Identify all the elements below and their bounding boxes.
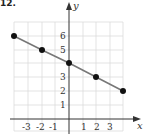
- data-point: [120, 88, 126, 94]
- y-tick-6: 6: [60, 31, 66, 41]
- data-point: [39, 47, 45, 53]
- x-tick-2: 2: [94, 122, 100, 132]
- problem-number: 12.: [0, 0, 16, 8]
- line-chart: y x 6 5 3 2 1 -3 -2 -1 1 2 3 12.: [0, 0, 146, 138]
- x-axis-label: x: [137, 120, 143, 131]
- y-tick-5: 5: [60, 45, 66, 55]
- data-point: [93, 74, 99, 80]
- y-tick-3: 3: [60, 72, 66, 82]
- x-tick-labels: -3 -2 -1 1 2 3: [22, 122, 113, 132]
- x-tick-neg3: -3: [22, 122, 31, 132]
- x-tick-3: 3: [107, 122, 113, 132]
- axes: [10, 8, 134, 134]
- y-tick-labels: 6 5 3 2 1: [60, 31, 66, 110]
- data-point: [11, 33, 17, 39]
- x-tick-neg1: -1: [49, 122, 58, 132]
- x-tick-neg2: -2: [36, 122, 45, 132]
- data-point: [66, 60, 72, 66]
- y-axis-arrow-icon: [66, 2, 72, 10]
- y-tick-2: 2: [60, 86, 66, 96]
- y-tick-1: 1: [60, 100, 66, 110]
- x-tick-1: 1: [81, 122, 87, 132]
- y-axis-label: y: [72, 0, 79, 11]
